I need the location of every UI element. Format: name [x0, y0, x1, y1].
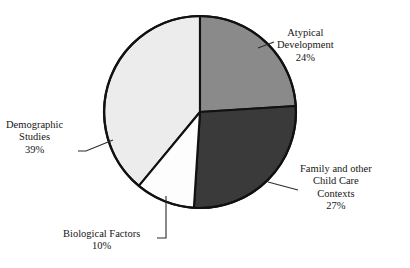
pie-label-atypical-development-line1: Atypical — [277, 27, 334, 39]
pie-label-family-child-care-contexts-line1: Family and other — [300, 163, 372, 175]
pie-label-demographic-studies-percent: 39% — [6, 144, 63, 156]
pie-label-atypical-development-percent: 24% — [277, 52, 334, 64]
pie-chart: Atypical Development 24% Family and othe… — [0, 0, 410, 268]
pie-label-demographic-studies-line1: Demographic — [6, 119, 63, 131]
pie-label-biological-factors: Biological Factors 10% — [63, 228, 140, 253]
pie-slice-family-child-care-contexts[interactable] — [194, 106, 296, 208]
leader-line-demographic-studies — [78, 140, 113, 151]
pie-label-atypical-development-line2: Development — [277, 39, 334, 51]
pie-label-biological-factors-line1: Biological Factors — [63, 228, 140, 240]
pie-label-demographic-studies: Demographic Studies 39% — [6, 119, 63, 156]
pie-label-biological-factors-percent: 10% — [63, 240, 140, 252]
pie-label-demographic-studies-line2: Studies — [6, 131, 63, 143]
leader-line-family-child-care-contexts — [268, 182, 298, 190]
pie-label-family-child-care-contexts-line2: Child Care — [300, 175, 372, 187]
pie-label-family-child-care-contexts-line3: Contexts — [300, 188, 372, 200]
pie-label-family-child-care-contexts: Family and other Child Care Contexts 27% — [300, 163, 372, 213]
pie-label-family-child-care-contexts-percent: 27% — [300, 200, 372, 212]
pie-label-atypical-development: Atypical Development 24% — [277, 27, 334, 64]
